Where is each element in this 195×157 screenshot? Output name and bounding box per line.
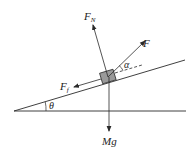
alpha-arc xyxy=(119,66,123,71)
friction-force-label: Ff xyxy=(59,80,70,94)
normal-force-arrow xyxy=(93,25,108,77)
theta-label: θ xyxy=(49,100,54,111)
weight-label: Mg xyxy=(101,135,117,147)
incline-line xyxy=(14,60,185,111)
alpha-label: α xyxy=(124,59,130,70)
incline-diagram: FN F Ff Mg θ α xyxy=(0,0,195,157)
normal-force-label: FN xyxy=(83,10,96,24)
applied-force-label: F xyxy=(142,37,150,49)
theta-arc xyxy=(45,102,46,111)
